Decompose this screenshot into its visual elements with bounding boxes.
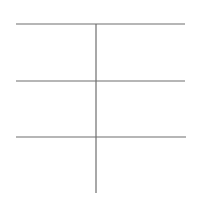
horizontal-lines <box>16 24 186 137</box>
diagram-svg <box>0 0 199 200</box>
t-chart-diagram <box>0 0 199 200</box>
